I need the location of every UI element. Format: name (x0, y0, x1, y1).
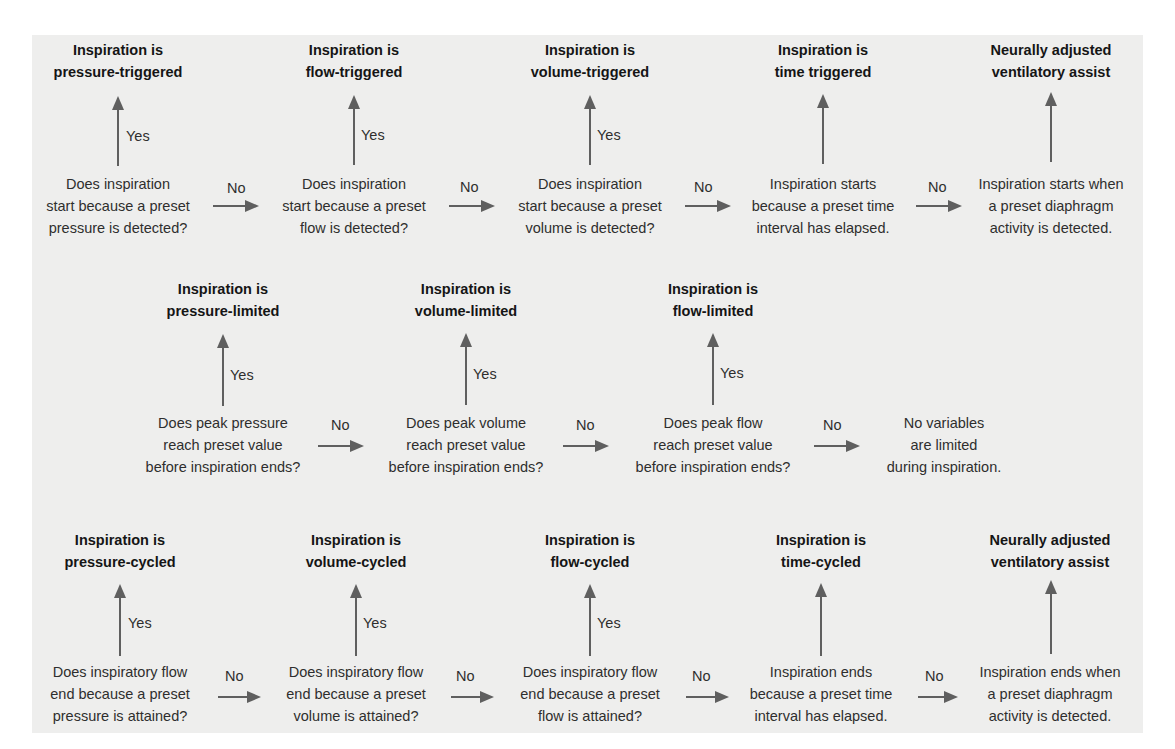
yes-label: Yes (230, 366, 254, 384)
trigger-heading-volume: Inspiration is volume-triggered (531, 39, 649, 83)
trigger-question-pressure: Does inspiration start because a preset … (46, 173, 189, 239)
limit-question-flow: Does peak flow reach preset value before… (636, 412, 791, 478)
trigger-question-time: Inspiration starts because a preset time… (752, 173, 895, 239)
yes-label: Yes (597, 614, 621, 632)
no-label: No (331, 416, 350, 434)
cycle-question-flow: Does inspiratory flow end because a pres… (520, 661, 659, 727)
no-label: No (692, 667, 711, 685)
trigger-heading-nava: Neurally adjusted ventilatory assist (991, 39, 1112, 83)
limit-heading-volume: Inspiration is volume-limited (415, 278, 517, 322)
limit-question-volume: Does peak volume reach preset value befo… (389, 412, 544, 478)
yes-label: Yes (597, 126, 621, 144)
limit-heading-flow: Inspiration is flow-limited (668, 278, 758, 322)
arrow-right-icon (918, 691, 958, 703)
trigger-question-nava: Inspiration starts when a preset diaphra… (978, 173, 1123, 239)
limit-question-none: No variables are limited during inspirat… (887, 412, 1001, 478)
arrow-right-icon (916, 200, 962, 212)
cycle-question-nava: Inspiration ends when a preset diaphragm… (979, 661, 1120, 727)
arrow-up-icon (815, 583, 827, 656)
yes-label: Yes (363, 614, 387, 632)
arrow-up-icon (112, 96, 124, 166)
arrow-right-icon (563, 440, 609, 452)
no-label: No (694, 178, 713, 196)
arrow-right-icon (685, 200, 731, 212)
cycle-heading-flow: Inspiration is flow-cycled (545, 529, 635, 573)
arrow-right-icon (318, 440, 364, 452)
arrow-right-icon (686, 691, 729, 703)
arrow-right-icon (213, 200, 259, 212)
cycle-question-pressure: Does inspiratory flow end because a pres… (50, 661, 189, 727)
cycle-heading-volume: Inspiration is volume-cycled (306, 529, 407, 573)
no-label: No (460, 178, 479, 196)
limit-heading-pressure: Inspiration is pressure-limited (167, 278, 280, 322)
cycle-question-volume: Does inspiratory flow end because a pres… (286, 661, 425, 727)
arrow-up-icon (350, 584, 362, 656)
yes-label: Yes (361, 126, 385, 144)
no-label: No (456, 667, 475, 685)
arrow-right-icon (814, 440, 860, 452)
cycle-question-time: Inspiration ends because a preset time i… (750, 661, 893, 727)
arrow-up-icon (817, 94, 829, 164)
cycle-heading-nava: Neurally adjusted ventilatory assist (990, 529, 1111, 573)
yes-label: Yes (473, 365, 497, 383)
cycle-heading-time: Inspiration is time-cycled (776, 529, 866, 573)
arrow-up-icon (584, 95, 596, 165)
arrow-up-icon (1045, 580, 1057, 654)
yes-label: Yes (720, 364, 744, 382)
yes-label: Yes (126, 127, 150, 145)
arrow-right-icon (218, 691, 261, 703)
arrow-up-icon (707, 333, 719, 405)
no-label: No (928, 178, 947, 196)
no-label: No (227, 179, 246, 197)
no-label: No (576, 416, 595, 434)
arrow-up-icon (348, 95, 360, 165)
trigger-question-flow: Does inspiration start because a preset … (282, 173, 425, 239)
no-label: No (823, 416, 842, 434)
arrow-up-icon (217, 334, 229, 406)
cycle-heading-pressure: Inspiration is pressure-cycled (64, 529, 175, 573)
no-label: No (225, 667, 244, 685)
limit-question-pressure: Does peak pressure reach preset value be… (146, 412, 301, 478)
arrow-up-icon (114, 584, 126, 656)
arrow-right-icon (451, 691, 494, 703)
arrow-up-icon (460, 333, 472, 405)
trigger-heading-pressure: Inspiration is pressure-triggered (54, 39, 183, 83)
trigger-question-volume: Does inspiration start because a preset … (518, 173, 661, 239)
trigger-heading-time: Inspiration is time triggered (775, 39, 872, 83)
arrow-right-icon (449, 200, 495, 212)
arrow-up-icon (584, 584, 596, 656)
trigger-heading-flow: Inspiration is flow-triggered (306, 39, 403, 83)
yes-label: Yes (128, 614, 152, 632)
no-label: No (925, 667, 944, 685)
arrow-up-icon (1045, 92, 1057, 162)
